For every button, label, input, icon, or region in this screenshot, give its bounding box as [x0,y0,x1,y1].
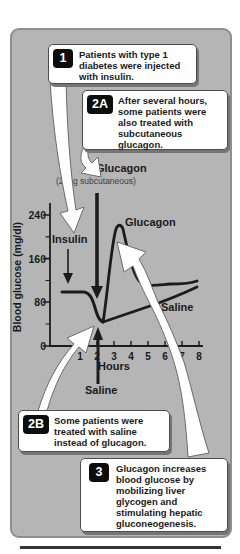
callout-2a: 2A After several hours, some patients we… [82,90,228,150]
callout-3: 3 Glucagon increases blood glucose by mo… [80,458,228,532]
figure: Blood glucose (mg/dl) 240 160 80 0 1 2 3… [0,0,240,554]
callout-1-text: Patients with type 1 diabetes were injec… [79,49,192,82]
callout-2b: 2B Some patients were treated with salin… [18,410,170,452]
callout-3-text: Glucagon increases blood glucose by mobi… [116,463,222,529]
callout-2b-text: Some patients were treated with saline i… [54,415,166,448]
callout-2a-badge: 2A [87,95,113,114]
insulin-down-arrow [63,249,73,284]
callout1-arrow [50,80,84,233]
callout-1: 1 Patients with type 1 diabetes were inj… [48,44,197,84]
callout-2b-badge: 2B [23,415,49,434]
callout2b-arrow [38,326,94,411]
callout-2a-text: After several hours, some patients were … [118,95,223,150]
callout-1-badge: 1 [53,49,73,68]
callout-3-badge: 3 [89,463,109,482]
glucagon-curve [103,225,197,322]
glucagon-injection-arrow [91,193,103,299]
callout2a-arrow [81,147,101,177]
saline-up-arrow [93,327,103,384]
